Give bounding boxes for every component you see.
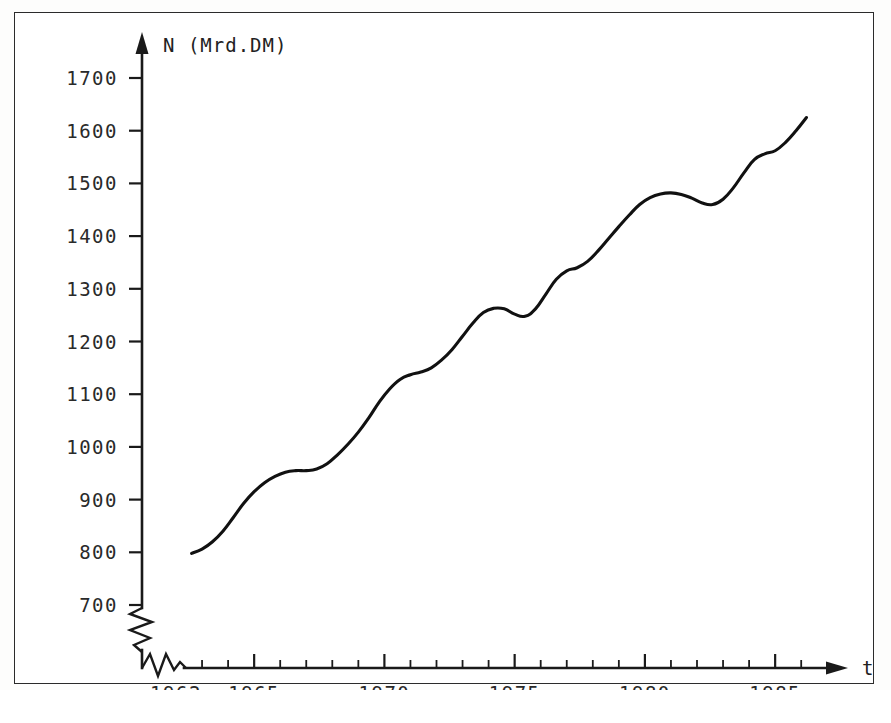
y-tick-label: 1300 xyxy=(66,278,118,300)
y-tick-label: 900 xyxy=(79,489,118,511)
y-tick-label: 1000 xyxy=(66,436,118,458)
y-tick-label: 800 xyxy=(79,541,118,563)
y-tick-label: 1500 xyxy=(66,172,118,194)
y-axis-group xyxy=(130,32,152,668)
figure-page: 7008009001000110012001300140015001600170… xyxy=(0,0,891,723)
caption-strip xyxy=(0,690,891,723)
y-tick-label: 1400 xyxy=(66,225,118,247)
y-axis-break-icon xyxy=(130,608,152,652)
line-chart-canvas: 7008009001000110012001300140015001600170… xyxy=(0,0,891,723)
y-tick-label: 1700 xyxy=(66,67,118,89)
y-tick-label: 1100 xyxy=(66,383,118,405)
data-series-line-N xyxy=(192,118,807,554)
y-tick-label: 1200 xyxy=(66,331,118,353)
x-tick-group xyxy=(202,654,801,668)
y-axis-title: N (Mrd.DM) xyxy=(163,34,287,56)
x-axis-group xyxy=(142,654,848,676)
y-axis-arrow-icon xyxy=(136,32,149,54)
x-axis-title: t xyxy=(862,657,874,679)
y-tick-label: 700 xyxy=(79,594,118,616)
y-tick-group: 7008009001000110012001300140015001600170… xyxy=(66,67,142,616)
x-axis-break-icon xyxy=(142,654,186,676)
y-tick-label: 1600 xyxy=(66,120,118,142)
x-axis-arrow-icon xyxy=(826,662,848,675)
